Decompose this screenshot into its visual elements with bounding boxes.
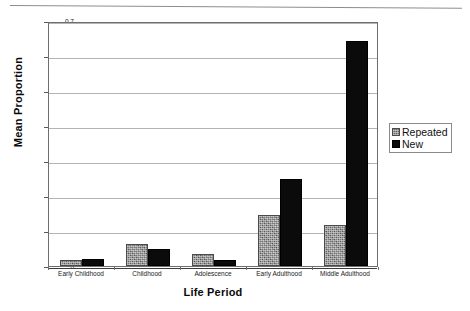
bar-chart-figure: Mean Proportion 00.10.20.30.40.50.60.7 E…: [0, 0, 470, 311]
bar-group-early-adulthood: [258, 23, 302, 266]
bar-early-adulthood-new: [280, 179, 302, 267]
legend-entry-repeated: Repeated: [392, 127, 448, 138]
chart-legend: RepeatedNew: [389, 123, 452, 153]
bar-group-adolescence: [192, 23, 236, 266]
bar-childhood-repeated: [126, 244, 148, 266]
x-tick-label-middle-adulthood: Middle Adulthood: [312, 270, 378, 277]
bar-group-childhood: [126, 23, 170, 266]
gridline-0: [49, 268, 377, 269]
bar-early-childhood-repeated: [60, 260, 82, 266]
x-axis-tick-labels: Early ChildhoodChildhoodAdolescenceEarly…: [48, 270, 378, 284]
y-axis-title: Mean Proportion: [12, 42, 24, 162]
gray-textured-swatch: [392, 128, 400, 136]
legend-label-repeated: Repeated: [402, 127, 448, 138]
bars-layer: [49, 23, 377, 266]
legend-entry-new: New: [392, 139, 448, 150]
bar-early-adulthood-repeated: [258, 215, 280, 266]
bar-group-middle-adulthood: [324, 23, 368, 266]
x-tick-label-early-adulthood: Early Adulthood: [246, 270, 312, 277]
x-tick-label-early-childhood: Early Childhood: [48, 270, 114, 277]
bar-childhood-new: [148, 249, 170, 267]
plot-area: [48, 22, 378, 267]
x-tick-label-adolescence: Adolescence: [180, 270, 246, 277]
bar-group-early-childhood: [60, 23, 104, 266]
bar-adolescence-repeated: [192, 254, 214, 266]
x-tick-label-childhood: Childhood: [114, 270, 180, 277]
bar-adolescence-new: [214, 260, 236, 266]
bar-early-childhood-new: [82, 259, 104, 266]
x-axis-title: Life Period: [48, 286, 378, 298]
legend-label-new: New: [402, 139, 423, 150]
bar-middle-adulthood-new: [346, 41, 368, 266]
black-swatch: [392, 140, 400, 148]
x-tick-mark-5: [378, 267, 379, 270]
bar-middle-adulthood-repeated: [324, 225, 346, 266]
